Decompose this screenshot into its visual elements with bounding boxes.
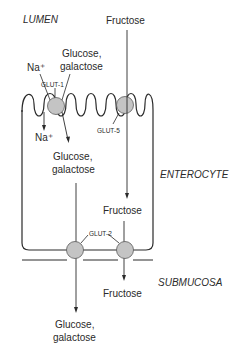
fructose-lumen-label: Fructose [106, 15, 145, 26]
arrowhead-icon [66, 137, 70, 144]
glut2-leader-left [81, 235, 88, 243]
glut2-label: GLUT-2 [89, 230, 112, 237]
na-lumen-label: Na⁺ [27, 62, 45, 73]
glut2-transporter-right [117, 242, 134, 259]
glut2-transporter-left [67, 242, 84, 259]
carbohydrate-absorption-diagram: LUMEN ENTEROCYTE SUBMUCOSA Fructose Gluc… [0, 0, 246, 350]
glut5-transporter [117, 97, 134, 114]
glut1-label: GLUT-1 [41, 81, 64, 88]
glucose-submucosa-label-1: Glucose, [55, 319, 94, 330]
enterocyte-label: ENTEROCYTE [160, 169, 229, 180]
lumen-label: LUMEN [23, 14, 59, 25]
glucose-arrow [62, 112, 68, 140]
fructose-cell-label: Fructose [103, 205, 142, 216]
fructose-submucosa-label: Fructose [103, 288, 142, 299]
glucose-lumen-label-2: galactose [60, 61, 103, 72]
arrowhead-icon [74, 307, 78, 313]
enterocyte-membrane-basolateral [22, 110, 153, 250]
glucose-cell-label-2: galactose [52, 164, 95, 175]
na-cell-label: Na⁺ [35, 132, 53, 143]
glut5-leader [113, 113, 119, 124]
glucose-lumen-label-1: Glucose, [62, 48, 101, 59]
glut5-label: GLUT-5 [97, 127, 120, 134]
submucosa-label: SUBMUCOSA [158, 277, 223, 288]
glucose-cell-label-1: Glucose, [53, 151, 92, 162]
arrowhead-icon [42, 125, 46, 131]
glucose-submucosa-label-2: galactose [53, 332, 96, 343]
arrowhead-icon [122, 275, 126, 281]
arrowhead-icon [125, 193, 129, 199]
glut1-transporter [48, 98, 65, 115]
